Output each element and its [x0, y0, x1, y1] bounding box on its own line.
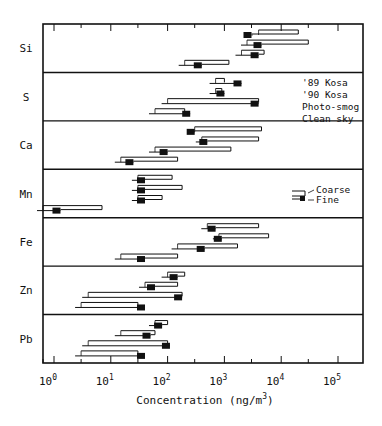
bar-row — [132, 185, 182, 193]
x-tick-label: 101 — [96, 373, 114, 388]
bar-row — [132, 175, 172, 183]
bar-row — [162, 272, 185, 280]
panel-zn: Zn — [19, 272, 184, 310]
bar-row — [82, 341, 170, 349]
legend-item-89-kosa: '89 Kosa — [302, 77, 348, 88]
bar-row — [241, 40, 308, 48]
x-tick-label: 103 — [209, 373, 227, 388]
bar-row — [149, 321, 168, 329]
bar-row — [179, 60, 229, 68]
panel-s: S — [23, 78, 259, 116]
element-label: Pb — [19, 333, 32, 346]
element-label: S — [23, 91, 30, 104]
coarse-key-icon — [292, 191, 305, 196]
bar-row — [37, 206, 102, 214]
fine-key-icon — [300, 196, 305, 201]
x-tick-label: 105 — [323, 373, 341, 388]
bar-row — [162, 99, 259, 107]
x-tick-label: 102 — [153, 373, 171, 388]
panel-si: Si — [19, 30, 308, 68]
bar-row — [196, 137, 259, 145]
fine-key-label: Fine — [316, 194, 339, 205]
bar-row — [172, 244, 238, 252]
bar-row — [139, 282, 178, 290]
x-tick-label: 100 — [39, 373, 57, 388]
element-label: Fe — [19, 236, 32, 249]
bar-row — [149, 109, 190, 117]
panel-pb: Pb — [19, 321, 170, 359]
element-label: Zn — [19, 284, 32, 297]
bar-row — [75, 351, 145, 359]
legend-item-90-kosa: '90 Kosa — [302, 89, 348, 100]
bar-row — [75, 302, 145, 310]
element-label: Mn — [19, 188, 32, 201]
bar-row — [210, 89, 225, 97]
bar-row — [82, 292, 182, 300]
bar-row — [115, 157, 178, 165]
panel-ca: Ca — [19, 127, 261, 165]
legend-item-clean-sky: Clean sky — [302, 113, 354, 124]
bar-row — [132, 196, 162, 204]
bar-row — [149, 147, 231, 155]
x-tick-label: 104 — [266, 373, 284, 388]
legend-item-photo-smog: Photo-smog — [302, 101, 359, 112]
bar-key: Coarse Fine — [292, 184, 351, 205]
bar-row — [235, 50, 264, 58]
bar-row — [201, 224, 258, 232]
legend: '89 Kosa '90 Kosa Photo-smog Clean sky — [302, 77, 359, 124]
bar-row — [210, 78, 242, 86]
arrow-icon — [308, 190, 314, 193]
element-label: Si — [19, 42, 32, 55]
bar-row — [115, 254, 178, 262]
bar-row — [244, 30, 299, 38]
element-label: Ca — [19, 139, 32, 152]
bar-row — [213, 234, 269, 242]
concentration-chart: SiSCaMnFeZnPb 100101102103104105 '89 Kos… — [0, 0, 382, 426]
plot-frame — [43, 24, 363, 363]
x-axis-title: Concentration (ng/m3) — [136, 392, 273, 407]
panel-fe: Fe — [19, 224, 268, 262]
bar-row — [115, 331, 155, 339]
bar-row — [187, 127, 262, 135]
